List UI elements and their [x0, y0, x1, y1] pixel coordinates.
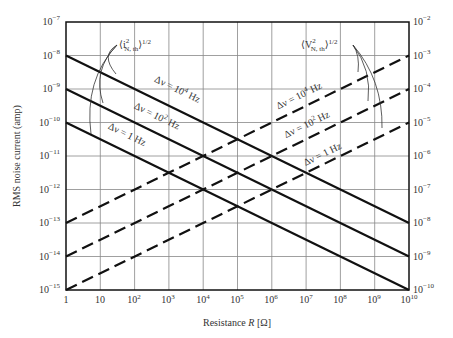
svg-text:10−13: 10−13	[39, 215, 60, 228]
svg-text:10−6: 10−6	[413, 148, 431, 161]
x-axis-title: Resistance R [Ω]	[203, 317, 271, 328]
svg-text:102: 102	[127, 293, 141, 305]
label-current-1: Δν = 1 Hz	[107, 120, 149, 148]
label-voltage-1e4: Δν = 104 Hz	[274, 79, 324, 112]
svg-text:10−15: 10−15	[39, 282, 60, 295]
svg-text:108: 108	[333, 293, 347, 305]
svg-text:10−12: 10−12	[39, 182, 60, 195]
svg-text:10−10: 10−10	[39, 115, 60, 128]
svg-text:10−8: 10−8	[43, 48, 61, 61]
svg-text:109: 109	[367, 293, 381, 305]
svg-text:10: 10	[95, 294, 105, 305]
right-y-axis: 10−2 10−3 10−4 10−5 10−6 10−7 10−8 10−9 …	[413, 14, 434, 295]
svg-text:10−8: 10−8	[413, 215, 431, 228]
svg-text:10−11: 10−11	[39, 148, 60, 161]
svg-text:1: 1	[64, 294, 69, 305]
svg-text:107: 107	[299, 293, 313, 305]
noise-chart: ⟨i2N, th⟩1/2 ⟨V2N, th⟩1/2 Δν = 104 Hz Δν…	[0, 0, 453, 338]
svg-text:10−4: 10−4	[413, 81, 431, 94]
svg-text:10−7: 10−7	[43, 14, 61, 27]
svg-text:10−9: 10−9	[43, 81, 61, 94]
grid	[66, 22, 409, 290]
label-current-1e2: Δν = 102 Hz	[133, 99, 183, 132]
svg-text:104: 104	[196, 293, 210, 305]
svg-text:Δν = 102 Hz: Δν = 102 Hz	[282, 107, 332, 140]
svg-text:103: 103	[161, 293, 175, 305]
svg-text:10−5: 10−5	[413, 115, 431, 128]
x-axis: 1 10 102 103 104 105 106 107 108 109 101…	[64, 293, 419, 305]
left-y-axis: 10−7 10−8 10−9 10−10 10−11 10−12 10−13 1…	[39, 14, 60, 295]
svg-text:Δν = 102 Hz: Δν = 102 Hz	[133, 99, 183, 132]
svg-text:1010: 1010	[401, 293, 419, 305]
svg-text:Δν = 1 Hz: Δν = 1 Hz	[107, 120, 149, 148]
svg-text:Δν = 104 Hz: Δν = 104 Hz	[274, 79, 324, 112]
svg-text:Δν = 1 Hz: Δν = 1 Hz	[302, 140, 344, 168]
svg-text:105: 105	[230, 293, 244, 305]
svg-text:10−2: 10−2	[413, 14, 431, 27]
current-annotation: ⟨i2N, th⟩1/2	[119, 37, 152, 53]
svg-text:106: 106	[264, 293, 278, 305]
svg-text:10−9: 10−9	[413, 249, 431, 262]
svg-text:10−7: 10−7	[413, 182, 431, 195]
svg-text:10−14: 10−14	[39, 249, 60, 262]
svg-text:10−3: 10−3	[413, 48, 431, 61]
label-voltage-1e2: Δν = 102 Hz	[282, 107, 332, 140]
voltage-annotation: ⟨V2N, th⟩1/2	[301, 37, 338, 53]
label-voltage-1: Δν = 1 Hz	[302, 140, 344, 168]
voltage-annotation-arrows	[353, 45, 382, 128]
y-axis-title: RMS noise current (amp)	[11, 105, 23, 207]
